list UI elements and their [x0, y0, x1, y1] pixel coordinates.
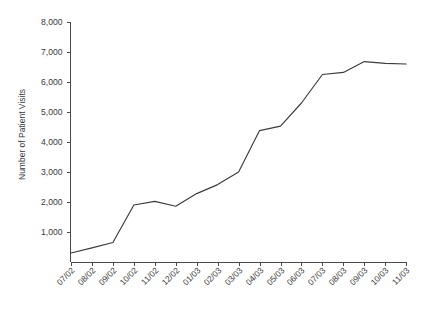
x-tick-label: 04/03: [244, 265, 266, 287]
y-axis-title-text: Number of Patient Visits: [17, 89, 27, 180]
y-tick-label: 4,000: [41, 137, 63, 147]
x-tick-label: 09/03: [348, 265, 370, 287]
x-tick-label: 10/03: [369, 265, 391, 287]
x-tick-label: 11/02: [139, 265, 161, 287]
y-tick-label: 3,000: [41, 167, 63, 177]
x-tick-label: 12/02: [160, 265, 182, 287]
y-axis-title: Number of Patient Visits: [17, 89, 27, 180]
y-tick-label: 1,000: [41, 227, 63, 237]
x-tick-label: 06/03: [285, 265, 307, 287]
x-axis-ticks: 07/0208/0209/0210/0211/0212/0201/0302/03…: [55, 262, 412, 287]
x-tick-label: 11/03: [390, 265, 412, 287]
chart-container: Number of Patient Visits 1,0002,0003,000…: [0, 0, 422, 309]
y-tick-label: 2,000: [41, 197, 63, 207]
x-tick-label: 08/02: [76, 265, 98, 287]
y-tick-label: 7,000: [41, 47, 63, 57]
x-tick-label: 09/02: [97, 265, 119, 287]
x-tick-label: 03/03: [223, 265, 245, 287]
x-tick-label: 10/02: [118, 265, 140, 287]
x-tick-label: 05/03: [265, 265, 287, 287]
y-tick-label: 6,000: [41, 77, 63, 87]
y-tick-label: 5,000: [41, 107, 63, 117]
y-axis-ticks: 1,0002,0003,0004,0005,0006,0007,0008,000: [41, 17, 71, 237]
x-tick-label: 08/03: [327, 265, 349, 287]
y-tick-label: 8,000: [41, 17, 63, 27]
x-tick-label: 01/03: [181, 265, 203, 287]
x-tick-label: 02/03: [202, 265, 224, 287]
x-tick-label: 07/03: [306, 265, 328, 287]
line-chart: Number of Patient Visits 1,0002,0003,000…: [0, 0, 422, 309]
data-series-line: [71, 62, 406, 253]
x-tick-label: 07/02: [55, 265, 77, 287]
